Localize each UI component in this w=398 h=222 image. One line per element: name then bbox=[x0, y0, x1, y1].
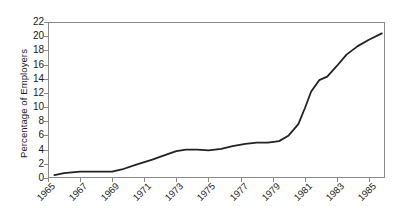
y-tick-label-6: 6 bbox=[22, 130, 44, 140]
y-tick-label-18: 18 bbox=[22, 45, 44, 55]
y-tick-mark-4 bbox=[44, 150, 48, 151]
x-tick-label-1969: 1969 bbox=[93, 181, 121, 209]
y-tick-mark-22 bbox=[44, 22, 48, 23]
y-tick-mark-12 bbox=[44, 93, 48, 94]
y-tick-label-0: 0 bbox=[22, 173, 44, 183]
y-tick-label-2: 2 bbox=[22, 159, 44, 169]
y-tick-mark-6 bbox=[44, 135, 48, 136]
y-tick-label-12: 12 bbox=[22, 88, 44, 98]
y-tick-mark-18 bbox=[44, 50, 48, 51]
y-tick-label-16: 16 bbox=[22, 60, 44, 70]
y-tick-label-10: 10 bbox=[22, 102, 44, 112]
x-tick-label-1981: 1981 bbox=[286, 181, 314, 209]
y-tick-mark-16 bbox=[44, 65, 48, 66]
y-tick-mark-8 bbox=[44, 121, 48, 122]
y-tick-label-8: 8 bbox=[22, 116, 44, 126]
x-tick-label-1979: 1979 bbox=[253, 181, 281, 209]
y-tick-mark-14 bbox=[44, 79, 48, 80]
x-tick-label-1977: 1977 bbox=[221, 181, 249, 209]
data-line-svg bbox=[48, 22, 385, 178]
x-tick-label-1967: 1967 bbox=[61, 181, 89, 209]
y-tick-mark-0 bbox=[44, 178, 48, 179]
y-tick-label-4: 4 bbox=[22, 145, 44, 155]
x-tick-label-1985: 1985 bbox=[350, 181, 378, 209]
y-tick-label-22: 22 bbox=[22, 17, 44, 27]
y-tick-label-14: 14 bbox=[22, 74, 44, 84]
y-tick-label-20: 20 bbox=[22, 31, 44, 41]
x-tick-label-1971: 1971 bbox=[125, 181, 153, 209]
x-tick-label-1975: 1975 bbox=[189, 181, 217, 209]
y-tick-mark-10 bbox=[44, 107, 48, 108]
y-tick-mark-2 bbox=[44, 164, 48, 165]
series-line-percentage-of-employers bbox=[54, 33, 381, 175]
chart-container: Percentage of Employers 2220181614121086… bbox=[0, 0, 398, 222]
x-tick-label-1973: 1973 bbox=[157, 181, 185, 209]
x-tick-label-1983: 1983 bbox=[318, 181, 346, 209]
y-tick-mark-20 bbox=[44, 36, 48, 37]
